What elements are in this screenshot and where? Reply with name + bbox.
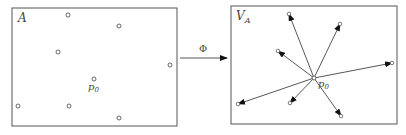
difference-vector: [238, 78, 314, 104]
right-panel: VA p0: [231, 6, 397, 124]
vector-endpoint: [288, 101, 292, 105]
vector-endpoint: [276, 49, 280, 53]
sample-point: [117, 24, 121, 28]
sample-point: [117, 116, 121, 120]
sample-point: [67, 104, 71, 108]
mapping-arrow: Φ: [180, 43, 227, 58]
right-panel-frame: [231, 6, 397, 124]
right-center-label: p0: [318, 78, 329, 91]
vector-endpoint: [236, 102, 240, 106]
left-point-set: [16, 13, 172, 120]
vector-endpoint: [339, 114, 343, 118]
sample-point: [56, 50, 60, 54]
sample-point: [66, 13, 70, 17]
sample-point: [168, 63, 172, 67]
set-a-label: A: [17, 11, 27, 25]
vector-endpoint: [287, 12, 291, 16]
sample-point: [16, 104, 20, 108]
right-center-point: [312, 76, 316, 80]
phi-label: Φ: [199, 43, 207, 54]
left-panel: A p0: [12, 8, 177, 126]
left-panel-frame: [12, 8, 177, 126]
vector-set: [236, 12, 394, 118]
diagram-canvas: A p0 Φ VA p0: [0, 0, 406, 135]
difference-vector: [314, 24, 340, 78]
left-center-label: p0: [88, 81, 99, 94]
vector-endpoint: [338, 22, 342, 26]
vector-endpoint: [390, 61, 394, 65]
set-va-label: VA: [236, 9, 251, 25]
difference-vector: [314, 63, 392, 78]
